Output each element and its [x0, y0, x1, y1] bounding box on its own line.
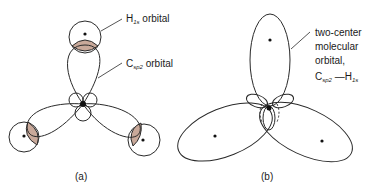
- nucleus-b-left: [213, 134, 216, 137]
- nucleus-h-right: [141, 138, 144, 141]
- label-two-center: two-center: [315, 27, 362, 38]
- panel-a: [9, 21, 160, 156]
- label-csp2-orbital: Csp2 orbital: [126, 58, 173, 70]
- pointer-csp2: [98, 63, 122, 78]
- caption-b: (b): [261, 171, 273, 182]
- label-molecular: molecular: [315, 41, 359, 52]
- label-csp2-h1s: Csp2 —H1s: [315, 71, 358, 83]
- nucleus-b-right: [320, 139, 323, 142]
- nucleus-b-top: [268, 38, 271, 41]
- label-orbital: orbital,: [315, 55, 345, 66]
- back-lobe-bottom: [75, 105, 91, 121]
- label-h1s-orbital: H1s orbital: [126, 13, 170, 25]
- nucleus-carbon-a: [80, 101, 86, 107]
- pointer-mo: [291, 32, 310, 49]
- nucleus-h-top: [83, 32, 86, 35]
- nucleus-carbon-b: [267, 106, 272, 111]
- nucleus-h-left: [22, 134, 25, 137]
- overlap-left: [26, 122, 38, 145]
- caption-a: (a): [75, 171, 87, 182]
- orbital-diagram: H1s orbital Csp2 orbital (a) two-center …: [0, 0, 374, 188]
- mo-back-lobe-right: [271, 92, 296, 111]
- mo-lobe-top: [250, 14, 290, 106]
- pointer-h1s: [101, 19, 122, 31]
